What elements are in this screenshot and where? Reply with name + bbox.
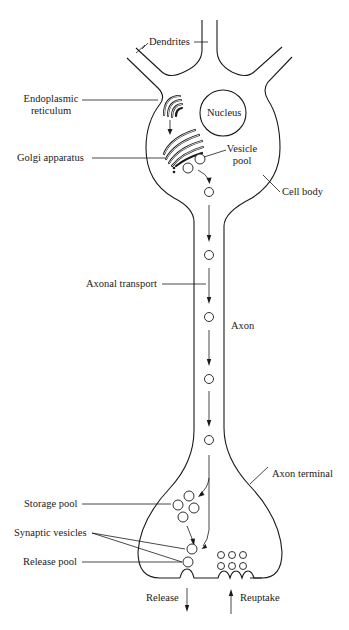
label-axonal-transport: Axonal transport: [86, 278, 157, 290]
label-release-pool: Release pool: [23, 556, 77, 568]
reuptake-arrow: [229, 589, 233, 614]
label-nucleus: Nucleus: [207, 107, 241, 119]
reuptake-vesicles: [218, 552, 247, 570]
label-storage-pool: Storage pool: [24, 498, 77, 510]
leader-lines: [82, 42, 280, 562]
label-endoplasmic-reticulum-line1: Endoplasmic: [20, 93, 82, 105]
label-synaptic-vesicles: Synaptic vesicles: [14, 527, 87, 539]
er-to-golgi-arrow: [168, 120, 173, 135]
label-vesicle-pool: Vesicle pool: [222, 143, 262, 167]
release-arrow: [185, 588, 189, 612]
label-dendrites: Dendrites: [149, 36, 190, 48]
storage-pool: [173, 491, 199, 522]
label-axon: Axon: [231, 320, 254, 332]
pool-to-axon-arrow: [198, 170, 212, 184]
label-reuptake: Reuptake: [240, 592, 280, 604]
axonal-transport: [205, 188, 214, 445]
label-cell-body: Cell body: [282, 186, 323, 198]
endoplasmic-reticulum: [164, 96, 182, 117]
label-golgi-apparatus: Golgi apparatus: [17, 152, 84, 164]
label-axon-terminal: Axon terminal: [272, 468, 333, 480]
label-endoplasmic-reticulum: Endoplasmic reticulum: [20, 93, 82, 117]
label-release: Release: [146, 592, 179, 604]
terminal-arrows: [187, 455, 209, 549]
release-pool: [183, 544, 197, 567]
label-vesicle-pool-line1: Vesicle: [222, 143, 262, 155]
label-endoplasmic-reticulum-line2: reticulum: [20, 105, 82, 117]
label-vesicle-pool-line2: pool: [222, 155, 262, 167]
